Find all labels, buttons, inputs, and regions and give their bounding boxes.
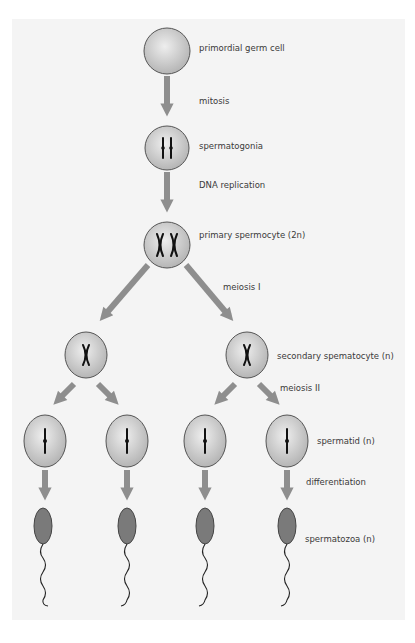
- label-differentiation: differentiation: [306, 477, 366, 487]
- label-mitosis: mitosis: [199, 96, 229, 106]
- spermatozoon-2: [118, 508, 136, 606]
- arrow-meiosis2-ll: [58, 384, 74, 400]
- primordial-germ-cell: [144, 28, 190, 74]
- spermatogonia-cell: [145, 126, 189, 170]
- label-meiosis-1: meiosis I: [223, 282, 261, 292]
- arrow-meiosis1-left: [104, 265, 148, 316]
- primary-spermocyte-cell: [144, 222, 190, 268]
- label-spermatozoa: spermatozoa (n): [305, 534, 375, 544]
- spermatozoon-3: [196, 508, 214, 606]
- label-primary-spermocyte: primary spermocyte (2n): [199, 230, 305, 240]
- arrow-meiosis2-rl: [219, 384, 235, 400]
- label-meiosis-2: meiosis II: [280, 383, 320, 393]
- label-primordial-germ-cell: primordial germ cell: [199, 43, 285, 53]
- spermatozoon-1: [34, 508, 52, 606]
- label-dna-replication: DNA replication: [199, 180, 265, 190]
- label-secondary-spermatocyte: secondary spematocyte (n): [277, 351, 394, 361]
- label-spermatogonia: spermatogonia: [199, 141, 263, 151]
- arrow-meiosis2-rr: [259, 384, 275, 400]
- label-spermatid: spermatid (n): [317, 436, 375, 446]
- arrow-meiosis2-lr: [98, 384, 114, 400]
- spermatozoa: [34, 508, 296, 606]
- spermatozoon-4: [278, 508, 296, 606]
